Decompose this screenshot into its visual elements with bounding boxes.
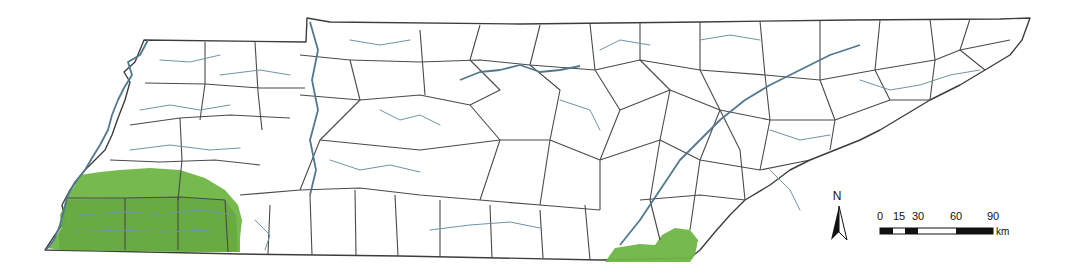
scale-tick-0: 0 xyxy=(877,210,883,222)
north-arrow: N xyxy=(831,189,847,240)
scale-bar: 0 15 30 60 90 km xyxy=(877,210,1009,237)
scale-tick-90: 90 xyxy=(987,210,999,222)
scale-tick-15: 15 xyxy=(893,210,905,222)
tennessee-map: N 0 15 30 60 90 km xyxy=(0,0,1066,278)
north-label: N xyxy=(833,189,842,203)
north-arrow-icon xyxy=(831,206,839,240)
scale-tick-30: 30 xyxy=(912,210,924,222)
scale-unit: km xyxy=(996,226,1009,237)
scale-tick-60: 60 xyxy=(950,210,962,222)
map-container: N 0 15 30 60 90 km xyxy=(0,0,1066,278)
highlight-southwest-dark xyxy=(58,197,238,252)
